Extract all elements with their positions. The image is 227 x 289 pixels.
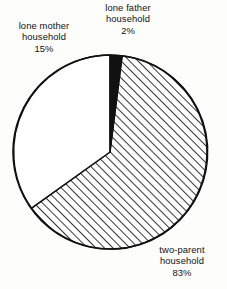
pie-label-lone-mother-percent: 15% (2, 43, 86, 54)
pie-label-lone-mother-line2: household (2, 31, 86, 42)
pie-label-two-parent-line2: household (140, 255, 224, 266)
pie-label-lone-father-line2: household (86, 13, 170, 24)
figure-caption-clipped (0, 283, 227, 289)
pie-chart-figure: lone mother household 15% lone father ho… (0, 0, 227, 289)
pie-label-two-parent-line1: two-parent (140, 244, 224, 255)
pie-label-lone-father-percent: 2% (86, 25, 170, 36)
pie-label-lone-father: lone father household 2% (86, 2, 170, 36)
pie-label-two-parent-percent: 83% (140, 267, 224, 278)
pie-label-lone-father-line1: lone father (86, 2, 170, 13)
pie-label-two-parent: two-parent household 83% (140, 244, 224, 278)
pie-label-lone-mother-line1: lone mother (2, 20, 86, 31)
pie-label-lone-mother: lone mother household 15% (2, 20, 86, 54)
